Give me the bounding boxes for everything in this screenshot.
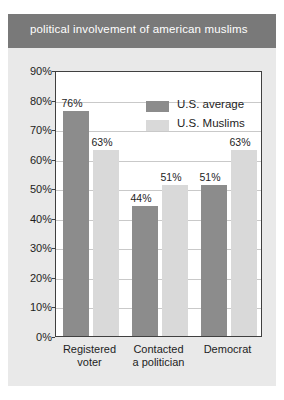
chart-legend: U.S. averageU.S. Muslims bbox=[146, 98, 258, 136]
y-axis-tick-label: 50% bbox=[12, 183, 52, 195]
category-label-line: a politician bbox=[124, 356, 193, 369]
category-label-line: Democrat bbox=[193, 343, 262, 356]
y-axis-tick-label: 60% bbox=[12, 154, 52, 166]
bar-value-label: 76% bbox=[62, 97, 83, 109]
y-axis-tick-label: 30% bbox=[12, 242, 52, 254]
y-axis-tick-label: 10% bbox=[12, 301, 52, 313]
bar-value-label: 51% bbox=[161, 171, 182, 183]
category-label-line: voter bbox=[55, 356, 124, 369]
y-axis-tick-label: 40% bbox=[12, 213, 52, 225]
y-axis-tick-label: 70% bbox=[12, 124, 52, 136]
legend-label: U.S. Muslims bbox=[177, 117, 245, 129]
legend-item[interactable]: U.S. average bbox=[146, 98, 258, 117]
legend-item[interactable]: U.S. Muslims bbox=[146, 117, 258, 136]
x-axis-category-label: Contacteda politician bbox=[124, 343, 193, 369]
title-banner: political involvement of american muslim… bbox=[8, 14, 276, 48]
bar bbox=[231, 150, 257, 336]
plot-area: 76%63%44%51%51%63% U.S. averageU.S. Musl… bbox=[55, 71, 262, 337]
chart-title: political involvement of american muslim… bbox=[30, 23, 248, 35]
bar bbox=[93, 150, 119, 336]
bar bbox=[63, 111, 89, 336]
x-axis-category-label: Democrat bbox=[193, 343, 262, 356]
y-axis-tick-label: 80% bbox=[12, 95, 52, 107]
y-axis-tick-label: 20% bbox=[12, 272, 52, 284]
bar-value-label: 44% bbox=[131, 192, 152, 204]
chart-figure: political involvement of american muslim… bbox=[8, 14, 276, 386]
category-label-line: Contacted bbox=[124, 343, 193, 356]
bar bbox=[132, 206, 158, 336]
y-axis: 90%80%70%60%50%40%30%20%10%0% bbox=[8, 71, 52, 337]
x-axis-category-label: Registeredvoter bbox=[55, 343, 124, 369]
legend-label: U.S. average bbox=[177, 98, 244, 110]
y-axis-tick-label: 90% bbox=[12, 65, 52, 77]
bar bbox=[201, 185, 227, 336]
bar-value-label: 63% bbox=[230, 136, 251, 148]
bar-value-label: 63% bbox=[92, 136, 113, 148]
legend-color-swatch bbox=[146, 120, 169, 131]
category-label-line: Registered bbox=[55, 343, 124, 356]
y-axis-tick-mark bbox=[52, 337, 55, 338]
bar-value-label: 51% bbox=[200, 171, 221, 183]
bar bbox=[162, 185, 188, 336]
legend-color-swatch bbox=[146, 101, 169, 112]
y-axis-tick-label: 0% bbox=[12, 331, 52, 343]
